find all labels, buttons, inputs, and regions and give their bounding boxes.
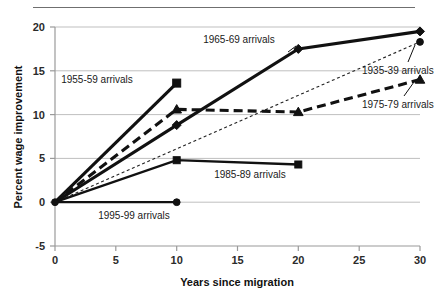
y-tick-label: 10	[33, 109, 45, 121]
x-tick-label: 30	[414, 254, 426, 266]
data-point-marker	[416, 27, 425, 36]
series-1955-59-arrivals	[55, 79, 181, 202]
x-tick-label: 20	[292, 254, 304, 266]
leader-1935-39	[408, 45, 415, 62]
series-line-1955-59	[55, 83, 177, 202]
x-tick-label: 5	[113, 254, 119, 266]
y-tick-labels: 20 15 10 5 0 -5	[33, 21, 45, 252]
y-tick-label: 5	[39, 152, 45, 164]
y-axis-title: Percent wage improvement	[12, 65, 24, 208]
series-label-1995-99: 1995-99 arrivals	[98, 210, 170, 221]
x-tick-label: 0	[52, 254, 58, 266]
y-tickmarks	[50, 27, 55, 246]
y-tick-label: 0	[39, 196, 45, 208]
y-tick-label: 20	[33, 21, 45, 33]
data-point-marker	[173, 199, 180, 206]
data-point-marker	[417, 39, 424, 46]
series-label-1965-69: 1965-69 arrivals	[203, 34, 275, 45]
data-point-marker	[173, 157, 180, 164]
x-tickmarks	[55, 246, 420, 251]
x-tick-label: 25	[353, 254, 365, 266]
series-label-1975-79: 1975-79 arrivals	[362, 99, 434, 110]
y-tick-label: -5	[35, 240, 45, 252]
x-axis-title: Years since migration	[180, 276, 294, 288]
line-chart-canvas: 20 15 10 5 0 -5 0 5 10 15 20 25 30 Perce…	[0, 0, 448, 305]
x-tick-label: 10	[171, 254, 183, 266]
data-point-marker	[295, 161, 302, 168]
series-label-1935-39: 1935-39 arrivals	[362, 65, 434, 76]
y-tick-label: 15	[33, 65, 45, 77]
series-label-1955-59: 1955-59 arrivals	[61, 74, 133, 85]
x-tick-label: 15	[231, 254, 243, 266]
series-label-1985-89: 1985-89 arrivals	[214, 169, 286, 180]
data-point-marker	[173, 79, 181, 87]
chart-figure: 20 15 10 5 0 -5 0 5 10 15 20 25 30 Perce…	[0, 0, 448, 305]
series-annotations: 1955-59 arrivals 1965-69 arrivals 1935-3…	[61, 34, 434, 221]
x-tick-labels: 0 5 10 15 20 25 30	[52, 254, 426, 266]
data-point-marker	[52, 199, 59, 206]
series-1995-99-arrivals	[52, 199, 181, 206]
